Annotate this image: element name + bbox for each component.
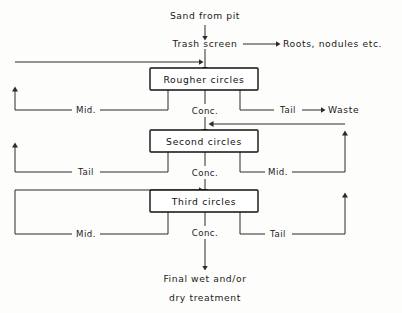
stream-third-mid-label: Mid. bbox=[76, 229, 96, 239]
edge-third-mid-return bbox=[15, 190, 168, 234]
output-roots-label: Roots, nodules etc. bbox=[283, 38, 382, 49]
node-second-circles-label: Second circles bbox=[166, 136, 242, 147]
stream-second-mid-label: Mid. bbox=[268, 167, 288, 177]
node-trash-screen-label: Trash screen bbox=[172, 38, 238, 49]
final-treatment-line1: Final wet and/or bbox=[163, 273, 246, 284]
node-second-circles[interactable]: Second circles bbox=[150, 130, 258, 152]
stream-rougher-mid-label: Mid. bbox=[76, 105, 96, 115]
stream-third-conc-label: Conc. bbox=[192, 228, 219, 238]
node-rougher-circles-label: Rougher circles bbox=[163, 74, 244, 85]
stream-second-tail-label: Tail bbox=[77, 167, 94, 177]
node-third-circles-label: Third circles bbox=[171, 196, 237, 207]
node-third-circles[interactable]: Third circles bbox=[150, 190, 258, 212]
node-rougher-circles[interactable]: Rougher circles bbox=[150, 68, 258, 90]
stream-rougher-tail-label: Tail bbox=[279, 105, 296, 115]
feed-label: Sand from pit bbox=[170, 10, 240, 21]
final-treatment-line2: dry treatment bbox=[169, 292, 241, 303]
stream-second-conc-label: Conc. bbox=[192, 168, 219, 178]
stream-third-tail-label: Tail bbox=[269, 229, 286, 239]
stream-rougher-conc-label: Conc. bbox=[192, 106, 219, 116]
flowchart-diagram: Rougher circles Second circles Third cir… bbox=[0, 0, 402, 313]
output-waste-label: Waste bbox=[328, 104, 359, 115]
flowchart-canvas: Rougher circles Second circles Third cir… bbox=[0, 0, 402, 313]
